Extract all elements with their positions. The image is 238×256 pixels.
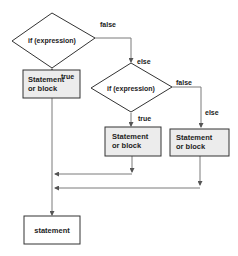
flowchart: if (expression) Statement or block if (e…: [0, 0, 238, 256]
block-3: Statement or block: [170, 129, 229, 156]
final-statement: statement: [24, 216, 80, 244]
block-2: Statement or block: [105, 127, 161, 156]
edge-cond1-false: [95, 38, 131, 62]
label-cond1-true: true: [61, 73, 74, 80]
block-1-line1: Statement: [28, 75, 65, 84]
block-3-line1: Statement: [176, 133, 213, 142]
final-statement-label: statement: [34, 226, 70, 235]
label-block3-else: else: [205, 109, 219, 116]
decision-2: if (expression): [91, 63, 172, 112]
block-3-line2: or block: [176, 142, 206, 151]
block-2-line1: Statement: [112, 132, 149, 141]
block-2-line2: or block: [112, 141, 142, 150]
label-cond2-else: else: [137, 58, 151, 65]
decision-2-label: if (expression): [107, 85, 155, 93]
block-1-line2: or block: [28, 84, 58, 93]
edge-cond2-false: [172, 87, 201, 127]
decision-1: if (expression): [12, 13, 95, 68]
label-cond2-false: false: [176, 79, 192, 86]
label-cond2-true: true: [138, 115, 151, 122]
decision-1-label: if (expression): [28, 37, 76, 45]
label-cond1-false: false: [100, 21, 116, 28]
